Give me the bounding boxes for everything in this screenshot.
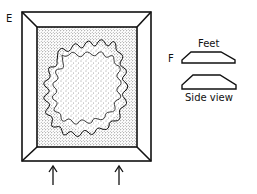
- label-f: F: [168, 54, 174, 64]
- up-arrow-icon: [115, 166, 123, 185]
- feet-label: Feet: [198, 39, 219, 49]
- feet-side-view: [182, 75, 236, 89]
- label-e: E: [6, 14, 12, 24]
- side-view-label: Side view: [185, 93, 233, 103]
- feet-top-view: [182, 52, 235, 63]
- up-arrow-icon: [49, 166, 57, 185]
